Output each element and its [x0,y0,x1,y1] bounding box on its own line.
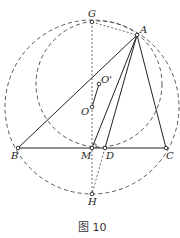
point-G [90,20,94,24]
line-AD [105,35,137,148]
label-D: D [105,150,114,161]
label-A: A [139,24,147,35]
figure-caption: 图 10 [78,221,107,234]
label-O: O [81,106,89,117]
label-C: C [166,150,174,161]
label-M: M [80,150,92,161]
line-OO-prime [92,84,99,107]
geometry-figure: G A O' O B M D C H 图 10 [0,0,180,238]
point-A [135,33,139,37]
line-DH [92,148,105,194]
line-AM [92,35,137,148]
label-O-prime: O' [101,74,112,85]
label-H: H [87,196,97,207]
side-AB [18,35,137,148]
label-B: B [10,150,18,161]
point-O [90,105,94,109]
label-G: G [88,8,96,19]
